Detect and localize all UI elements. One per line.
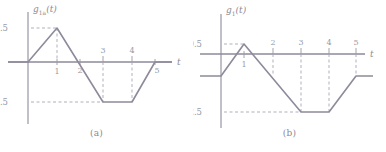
tick-label-a-5: 5 [154, 66, 159, 75]
value-label-a-neg: -1.5 [0, 97, 8, 107]
y-axis-label-b: g1(t) [226, 5, 247, 17]
tick-label-a-2: 2 [77, 66, 82, 75]
tick-label-b-2: 2 [270, 38, 275, 47]
plot-panel-a: g1a(t) t 1.5 -1.5 1 2 3 4 5 (a) [0, 0, 193, 152]
plot-panel-b: g1(t) t 0.5 -2.5 1 2 3 4 5 (b) [193, 0, 386, 152]
y-axis-label-a: g1a(t) [33, 4, 57, 16]
tick-label-b-1: 1 [241, 60, 246, 69]
signal-trace-a [8, 28, 172, 102]
tick-label-a-3: 3 [100, 46, 105, 55]
x-axis-label-b: t [370, 49, 374, 59]
tick-label-a-1: 1 [54, 67, 59, 76]
tick-label-a-4: 4 [129, 46, 134, 55]
tick-label-b-5: 5 [353, 38, 358, 47]
value-label-b-pos: 0.5 [193, 39, 202, 49]
tick-label-b-4: 4 [326, 38, 331, 47]
panel-caption-a: (a) [0, 128, 193, 138]
figure-root: g1a(t) t 1.5 -1.5 1 2 3 4 5 (a) [0, 0, 386, 152]
tick-label-b-3: 3 [298, 38, 303, 47]
value-label-a-pos: 1.5 [0, 23, 8, 33]
value-label-b-neg: -2.5 [193, 107, 202, 117]
x-axis-label-a: t [177, 57, 181, 67]
panel-caption-b: (b) [193, 128, 386, 138]
